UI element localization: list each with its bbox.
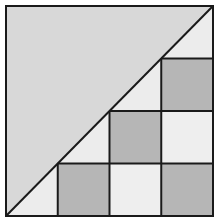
diagram bbox=[0, 0, 222, 224]
dark-cell bbox=[110, 111, 162, 164]
dark-cell bbox=[161, 59, 213, 112]
light-cell bbox=[110, 164, 162, 217]
dark-cell bbox=[58, 164, 110, 217]
light-cell bbox=[161, 111, 213, 164]
dark-cell bbox=[161, 164, 213, 217]
